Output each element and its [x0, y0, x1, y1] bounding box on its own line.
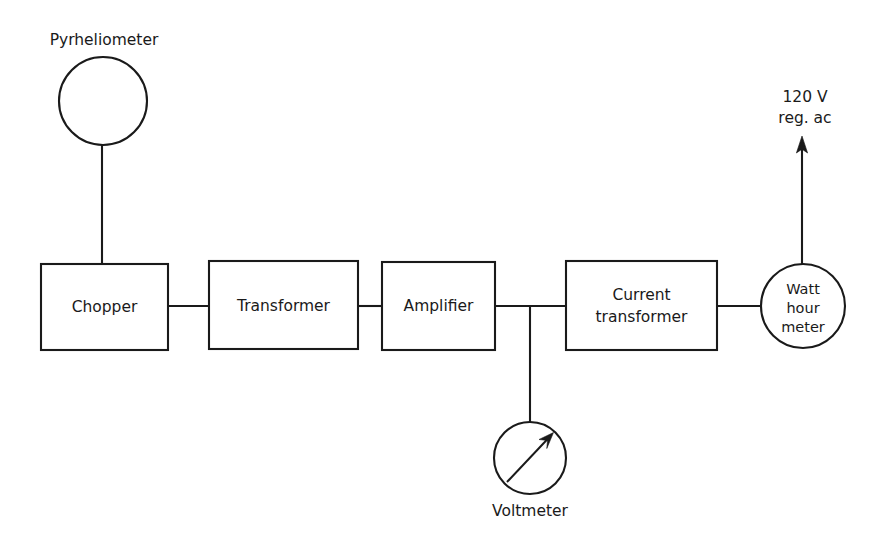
- block-chopper[interactable]: Chopper: [41, 264, 168, 350]
- voltmeter-label: Voltmeter: [492, 502, 569, 520]
- current-transformer-label-line2: transformer: [596, 308, 689, 326]
- transformer-label: Transformer: [236, 297, 331, 315]
- watt-hour-meter-label-line3: meter: [781, 319, 825, 335]
- watt-hour-meter-label-line1: Watt: [786, 281, 820, 297]
- current-transformer-box[interactable]: [566, 261, 717, 350]
- supply-label-line1: 120 V: [782, 88, 828, 106]
- supply-label-line2: reg. ac: [778, 109, 831, 127]
- amplifier-label: Amplifier: [404, 297, 474, 315]
- block-transformer[interactable]: Transformer: [209, 261, 358, 349]
- chopper-label: Chopper: [72, 298, 138, 316]
- diagram-svg: Chopper Transformer Amplifier Current tr…: [0, 0, 887, 540]
- annotation-supply: 120 V reg. ac: [778, 88, 831, 127]
- instrument-pyrheliometer[interactable]: Pyrheliometer: [50, 31, 159, 145]
- current-transformer-label-line1: Current: [612, 286, 670, 304]
- block-diagram-canvas: Chopper Transformer Amplifier Current tr…: [0, 0, 887, 540]
- pyrheliometer-symbol-icon[interactable]: [59, 57, 147, 145]
- watt-hour-meter-label-line2: hour: [786, 300, 819, 316]
- block-current-transformer[interactable]: Current transformer: [566, 261, 717, 350]
- instrument-voltmeter[interactable]: Voltmeter: [492, 422, 569, 520]
- instrument-watt-hour-meter[interactable]: Watt hour meter: [761, 264, 845, 348]
- block-amplifier[interactable]: Amplifier: [382, 262, 495, 350]
- pyrheliometer-label: Pyrheliometer: [50, 31, 159, 49]
